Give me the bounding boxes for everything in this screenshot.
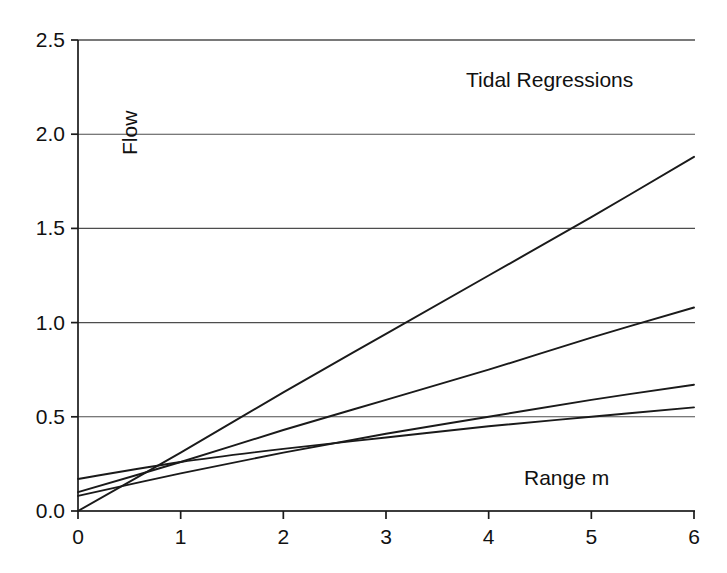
x-axis-tick-label: 0 bbox=[72, 525, 84, 549]
x-axis-tick-label: 3 bbox=[380, 525, 392, 549]
y-axis-tick-label: 2.0 bbox=[36, 122, 65, 146]
x-axis-tick-label: 1 bbox=[175, 525, 187, 549]
x-axis-tick-label: 6 bbox=[688, 525, 700, 549]
y-axis-tick-label: 1.5 bbox=[36, 216, 65, 240]
y-axis-tick-label: 2.5 bbox=[36, 28, 65, 52]
y-axis-tick-label: 0.5 bbox=[36, 405, 65, 429]
x-axis-tick-label: 5 bbox=[585, 525, 597, 549]
x-axis-label: Range m bbox=[524, 466, 609, 490]
y-axis-label: Flow bbox=[118, 111, 142, 155]
y-axis-tick-label: 0.0 bbox=[36, 499, 65, 523]
y-axis-tick-label: 1.0 bbox=[36, 311, 65, 335]
x-axis-tick-label: 2 bbox=[277, 525, 289, 549]
chart-title: Tidal Regressions bbox=[466, 68, 633, 92]
x-axis-tick-label: 4 bbox=[483, 525, 495, 549]
chart-container: 0.00.51.01.52.02.5 0123456 Flow Range m … bbox=[0, 0, 727, 573]
